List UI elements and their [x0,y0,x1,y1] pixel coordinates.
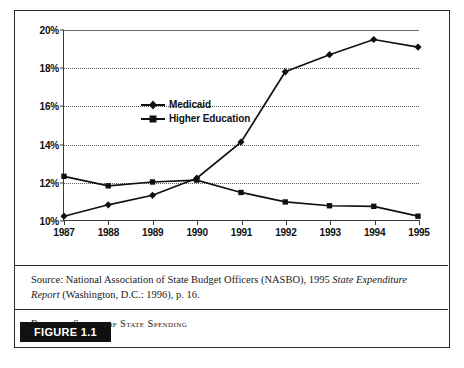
x-tick-mark-1991 [242,220,243,225]
figure-frame: 10%12%14%16%18%20% 198719881989199019911… [14,10,450,348]
legend-item-medicaid: Medicaid [140,98,250,112]
legend-marker-diamond-icon [140,99,166,111]
y-tick-label-10: 10% [40,216,59,227]
x-tick-label-1993: 1993 [320,227,341,238]
source-block: Source: National Association of State Bu… [15,265,448,309]
x-tick-mark-1990 [197,220,198,225]
x-tick-mark-1994 [375,220,376,225]
x-tick-label-1992: 1992 [275,227,296,238]
source-prefix: Source: National Association of State Bu… [31,274,332,285]
x-tick-mark-1993 [330,220,331,225]
data-point-higher-education-1990 [194,177,199,182]
legend-marker-square-icon [140,113,166,125]
data-point-higher-education-1993 [327,203,332,208]
x-tick-label-1989: 1989 [142,227,163,238]
x-tick-label-1991: 1991 [231,227,252,238]
x-tick-label-1995: 1995 [408,227,429,238]
series-line-medicaid [64,40,418,217]
figure-tag: FIGURE 1.1 [20,322,111,342]
data-point-medicaid-1988 [105,201,112,208]
legend-label-higher-education: Higher Education [169,112,250,126]
data-point-medicaid-1989 [149,192,156,199]
chart-panel: 10%12%14%16%18%20% 198719881989199019911… [15,11,448,265]
series-line-higher-education [64,176,418,216]
data-point-higher-education-1995 [415,214,420,219]
x-tick-mark-1992 [286,220,287,225]
data-point-medicaid-1995 [414,44,421,51]
data-point-medicaid-1994 [370,36,377,43]
y-tick-label-14: 14% [40,139,59,150]
source-suffix: (Washington, D.C.: 1996), p. 16. [62,289,199,300]
data-point-higher-education-1987 [61,174,66,179]
data-point-higher-education-1988 [106,183,111,188]
data-point-higher-education-1992 [283,199,288,204]
x-tick-mark-1989 [153,220,154,225]
plot-area: 10%12%14%16%18%20% 198719881989199019911… [63,30,419,221]
data-point-medicaid-1987 [60,213,67,220]
x-tick-mark-1987 [64,220,65,225]
chart-legend: Medicaid Higher Education [140,98,250,126]
x-tick-label-1988: 1988 [98,227,119,238]
x-tick-label-1987: 1987 [53,227,74,238]
y-tick-label-12: 12% [40,177,59,188]
data-point-higher-education-1994 [371,204,376,209]
legend-label-medicaid: Medicaid [169,98,211,112]
data-point-medicaid-1993 [326,51,333,58]
source-text: Source: National Association of State Bu… [31,273,431,302]
y-tick-label-18: 18% [40,63,59,74]
data-point-higher-education-1989 [150,179,155,184]
x-tick-mark-1995 [419,220,420,225]
x-tick-mark-1988 [108,220,109,225]
x-tick-label-1990: 1990 [186,227,207,238]
y-tick-label-16: 16% [40,101,59,112]
x-tick-label-1994: 1994 [364,227,385,238]
legend-item-higher-education: Higher Education [140,112,250,126]
data-point-higher-education-1991 [238,190,243,195]
y-tick-label-20: 20% [40,25,59,36]
